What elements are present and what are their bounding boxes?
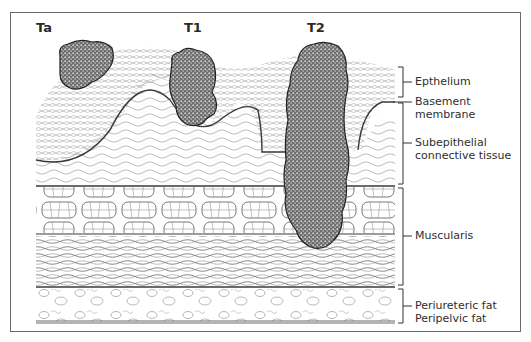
label-fat-line2: Peripelvic fat: [415, 312, 497, 325]
muscularis-fibers: [36, 236, 395, 286]
label-basement-membrane: Basement membrane: [415, 95, 475, 121]
label-fat: Periureteric fat Peripelvic fat: [415, 299, 497, 325]
label-basement-line2: membrane: [415, 108, 475, 121]
stage-label-t1: T1: [184, 20, 202, 35]
tumor-t2: [284, 42, 349, 248]
label-brackets: [393, 67, 412, 323]
stage-label-ta: Ta: [36, 20, 52, 35]
tissue-illustration: [0, 0, 531, 342]
stage-label-t2: T2: [307, 20, 325, 35]
label-basement-line1: Basement: [415, 95, 475, 108]
label-epithelium: Epthelium: [415, 75, 471, 88]
label-fat-line1: Periureteric fat: [415, 299, 497, 312]
label-subepithelial-line2: connective tissue: [415, 149, 511, 162]
label-subepithelial: Subepithelial connective tissue: [415, 136, 511, 162]
label-subepithelial-line1: Subepithelial: [415, 136, 511, 149]
fat-layer: [36, 289, 395, 321]
label-muscularis: Muscularis: [415, 229, 473, 242]
